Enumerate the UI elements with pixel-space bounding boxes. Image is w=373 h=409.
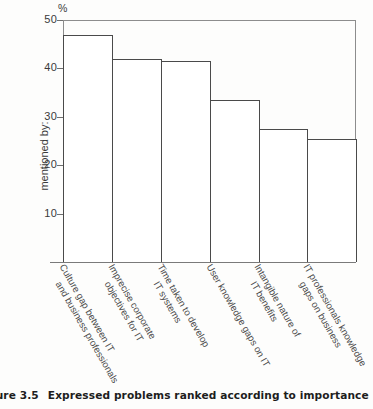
percent-unit-label: % xyxy=(58,2,67,14)
bar-series xyxy=(63,20,356,262)
bar-1 xyxy=(63,35,113,262)
y-tick-label: 40 xyxy=(33,61,57,73)
figure-caption-text: Expressed problems ranked according to i… xyxy=(48,389,369,401)
bar-4 xyxy=(210,100,260,262)
y-tick-label: 50 xyxy=(33,13,57,25)
bar-6 xyxy=(307,139,357,262)
y-tick-label: 30 xyxy=(33,110,57,122)
y-tick-label: 20 xyxy=(33,158,57,170)
y-tick-label: 10 xyxy=(33,207,57,219)
bar-2 xyxy=(112,59,162,262)
bar-5 xyxy=(258,129,308,262)
figure-caption: gure 3.5Expressed problems ranked accord… xyxy=(0,389,361,401)
x-axis-category-labels: Culture gap between ITand business profe… xyxy=(0,262,361,382)
bar-3 xyxy=(161,61,211,262)
figure-number: gure 3.5 xyxy=(0,389,39,401)
